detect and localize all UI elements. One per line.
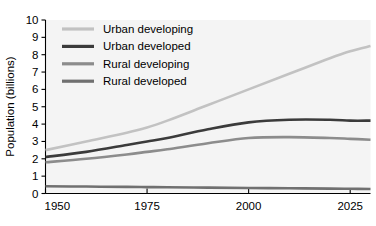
x-tick-label: 1975 bbox=[134, 200, 160, 212]
y-tick-label: 10 bbox=[26, 14, 39, 26]
y-tick-label: 6 bbox=[32, 83, 38, 95]
y-tick-label: 3 bbox=[32, 135, 38, 147]
y-tick-label: 5 bbox=[32, 101, 38, 113]
y-axis-title: Population (billions) bbox=[4, 56, 16, 157]
y-tick-label: 0 bbox=[32, 188, 38, 200]
x-tick-label: 2000 bbox=[236, 200, 262, 212]
legend-label-rural-developing: Rural developing bbox=[103, 58, 189, 70]
x-tick-label: 2025 bbox=[337, 200, 363, 212]
x-axis-tick-labels: 1950197520002025 bbox=[45, 200, 363, 212]
y-tick-label: 4 bbox=[32, 118, 39, 130]
population-line-chart: 012345678910 1950197520002025 Population… bbox=[0, 0, 376, 226]
y-tick-label: 2 bbox=[32, 153, 38, 165]
y-tick-label: 8 bbox=[32, 49, 38, 61]
chart-canvas: 012345678910 1950197520002025 Population… bbox=[0, 0, 376, 226]
y-tick-label: 7 bbox=[32, 66, 38, 78]
x-tick-label: 1950 bbox=[45, 200, 71, 212]
y-tick-label: 9 bbox=[32, 31, 38, 43]
legend-label-urban-developing: Urban developing bbox=[103, 23, 193, 35]
legend-label-urban-developed: Urban developed bbox=[103, 40, 191, 52]
plot-area-background bbox=[46, 20, 371, 193]
legend-label-rural-developed: Rural developed bbox=[103, 75, 187, 87]
y-axis-tick-labels: 012345678910 bbox=[26, 14, 39, 200]
y-tick-label: 1 bbox=[32, 170, 38, 182]
y-axis-ticks bbox=[42, 20, 46, 194]
